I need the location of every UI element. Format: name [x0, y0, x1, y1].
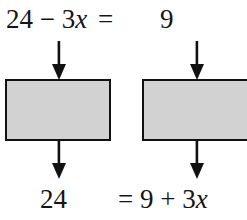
bottom-right-variable: x [196, 184, 208, 214]
top-right-expression: 9 [160, 6, 174, 33]
equation-transformation-diagram: 24 − 3x = 9 24 = 9 + 3x [0, 0, 247, 220]
top-left-expression-text: 24 − 3 [6, 4, 75, 34]
bottom-right-expression: = 9 + 3x [118, 186, 208, 213]
arrow-out-of-left-box-icon [51, 140, 67, 179]
left-operation-box[interactable] [5, 79, 111, 141]
top-left-expression: 24 − 3x [6, 6, 87, 33]
top-equals-sign: = [98, 6, 113, 33]
bottom-right-expression-text: = 9 + 3 [118, 184, 196, 214]
top-left-variable: x [75, 4, 87, 34]
arrow-into-left-box-icon [51, 41, 67, 80]
bottom-left-expression: 24 [40, 186, 67, 213]
arrow-out-of-right-box-icon [189, 140, 205, 179]
arrow-into-right-box-icon [189, 41, 205, 80]
right-operation-box[interactable] [142, 79, 247, 141]
